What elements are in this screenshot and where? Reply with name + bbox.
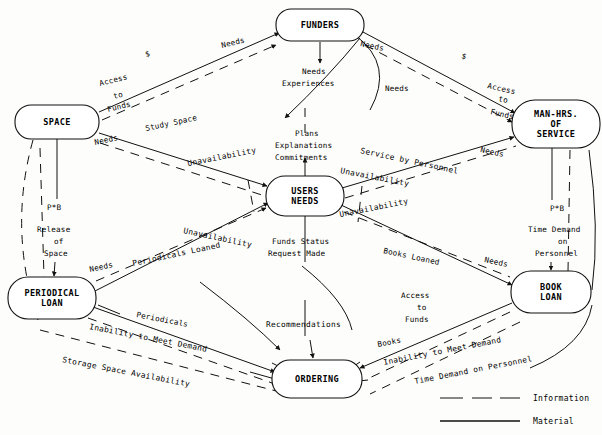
edge-to-ordering [310,340,313,358]
edge-label-access-funds-left-3: Funds [106,99,131,114]
edge-label-release-of-space-2: of [54,237,64,246]
edge-label-needs-experiences-1: Needs [302,67,326,76]
edge-label-pb-left: P*B [47,203,62,212]
edge-label-needs-funders-left: Needs [220,35,245,50]
node-label-bookloan: LOAN [540,292,562,302]
edge-label-needs-manhrs: Needs [480,145,505,159]
node-label-users: NEEDS [291,196,319,206]
edge-label-funds-status-1: Funds Status [272,237,329,246]
node-label-periodical: PERIODICAL [24,288,79,298]
legend-label-material: Material [533,417,574,426]
edge-label-periodicals-loaned: Periodicals Loaned [132,240,222,267]
edge-ordering-in-b [250,372,275,379]
node-label-manhrs: OF [550,119,561,129]
node-label-periodical: LOAN [41,298,63,308]
edge-label-access-funds-bottom-2: to [417,303,427,312]
edge-info-bracket-right [358,186,362,222]
influence-diagram: FUNDERSSPACEMAN-HRS.OFSERVICEUSERSNEEDSP… [0,0,602,435]
edge-label-plans: Plans [295,129,319,138]
edge-label-service-by-personnel: Service by Personnel [360,146,460,176]
legend: Information Material [440,394,589,426]
edge-funders-to-manhrs [363,32,515,113]
edge-label-explanations: Explanations [275,141,332,150]
edge-label-access-funds-left-2: to [112,90,124,101]
edge-label-needs-periodical: Needs [89,260,114,274]
node-label-ordering: ORDERING [295,374,339,384]
edge-label-unavail-upper-right: Unavailability [340,166,410,188]
node-label-funders: FUNDERS [301,20,340,30]
edge-label-access-funds-right-2: to [498,94,510,105]
edge-label-needs-bookloan: Needs [484,255,509,269]
edge-label-pb-right: P*B [550,204,565,213]
node-ordering[interactable]: ORDERING [272,360,362,398]
edge-label-access-funds-bottom-3: Funds [405,315,429,324]
edge-label-books-loaned: Books Loaned [383,246,441,267]
node-bookloan[interactable]: BOOKLOAN [511,271,591,313]
edge-label-time-demand-3: Personnel [535,249,578,258]
edge-label-books: Books [377,336,402,349]
edge-label-time-demand-1: Time Demand [528,225,581,234]
edge-label-study-space: Study Space [145,113,198,133]
legend-label-information: Information [533,394,589,403]
edge-space-to-users [99,133,267,186]
edge-label-access-funds-left: Access [98,72,128,88]
node-manhrs[interactable]: MAN-HRS.OFSERVICE [512,100,600,148]
edge-label-time-demand-2: on [558,237,568,246]
edge-periodical-curve-ordering [200,282,280,350]
edge-label-commitments: Commitments [275,153,328,162]
node-label-bookloan: BOOK [540,282,563,292]
edge-label-needs-experiences-2: Experiences [282,79,335,88]
edge-label-time-demand-personnel: Time Demand on Personnel [414,354,533,386]
node-label-space: SPACE [43,117,71,127]
diagram-canvas: FUNDERSSPACEMAN-HRS.OFSERVICEUSERSNEEDSP… [0,0,602,435]
edge-label-unavail-upper-left: Unavailability [187,146,257,168]
edge-label-release-of-space-3: Space [44,249,68,258]
edge-label-needs-mid: Needs [385,84,409,93]
edge-label-recommendations: Recommendations [266,320,341,329]
edge-release-space-to-periodical [54,262,55,276]
edge-label-release-of-space-1: Release [37,225,71,234]
node-label-users: USERS [291,186,319,196]
edge-label-unavail-lower-right: Unavailability [339,197,409,219]
edge-label-funds-status-2: Request Made [268,249,325,258]
edge-bookloan-outer-curve [530,305,592,368]
edge-info-bracket-left [248,180,254,212]
edge-label-storage-space: Storage Space Availability [62,355,191,389]
edge-funders-curve-left [285,38,360,118]
edge-label-periodicals: Periodicals [136,310,189,329]
node-space[interactable]: SPACE [15,105,99,139]
edge-manhrs-right-curve [589,150,595,290]
node-funders[interactable]: FUNDERS [276,9,364,41]
edge-label-access-funds-right-3: Funds [490,107,515,121]
node-label-manhrs: SERVICE [537,129,576,139]
node-users[interactable]: USERSNEEDS [266,176,344,216]
node-label-manhrs: MAN-HRS. [534,109,578,119]
edge-users-to-bookloan [341,205,512,285]
edge-label-dollar-left: $ [144,49,151,59]
edge-label-access-funds-bottom-1: Access [401,291,430,300]
node-periodical[interactable]: PERIODICALLOAN [8,277,96,319]
edge-info-users-bookloan [344,212,510,277]
edge-label-dollar-right: $ [460,51,467,61]
